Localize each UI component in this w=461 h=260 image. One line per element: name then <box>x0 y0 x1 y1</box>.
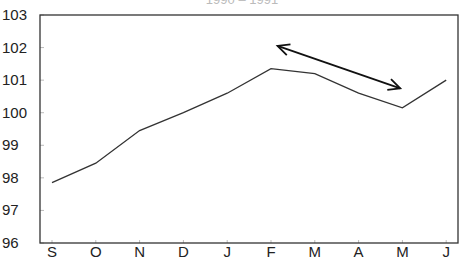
data-line <box>52 69 446 183</box>
arrow-shaft <box>278 46 401 88</box>
y-tick-label: 96 <box>2 234 19 251</box>
y-tick-label: 100 <box>2 104 27 121</box>
x-tick-label: F <box>266 243 275 260</box>
x-tick-label: N <box>134 243 145 260</box>
x-tick-label: D <box>178 243 189 260</box>
x-tick-label: J <box>223 243 231 260</box>
y-tick-label: 102 <box>2 39 27 56</box>
x-tick-label: O <box>90 243 102 260</box>
y-tick-label: 101 <box>2 71 27 88</box>
double-arrow-annotation <box>278 44 401 89</box>
x-tick-label: M <box>396 243 409 260</box>
chart-title: 1990 – 1991 <box>206 0 278 7</box>
x-tick-label: M <box>309 243 322 260</box>
plot-frame <box>40 15 458 243</box>
y-tick-label: 103 <box>2 6 27 23</box>
y-tick-label: 98 <box>2 169 19 186</box>
y-axis: 96979899100101102103 <box>2 6 44 251</box>
line-chart: 1990 – 1991 96979899100101102103 SONDJFM… <box>0 0 461 260</box>
y-tick-label: 97 <box>2 201 19 218</box>
x-tick-label: S <box>47 243 57 260</box>
x-tick-label: A <box>354 243 364 260</box>
x-tick-label: J <box>442 243 450 260</box>
y-tick-label: 99 <box>2 136 19 153</box>
